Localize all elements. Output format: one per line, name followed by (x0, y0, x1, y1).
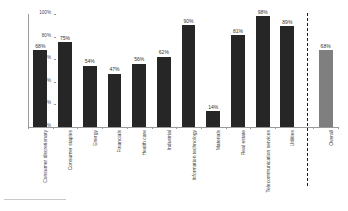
category-label: Materials (215, 130, 221, 150)
category-label-text: Telecommunication services (265, 130, 271, 193)
category-label-text: Consumer staples (67, 130, 73, 170)
category-label-text: Overall (328, 130, 334, 146)
bar (319, 50, 333, 127)
x-tick-mark (201, 127, 202, 129)
category-label: Consumer discretionary (42, 130, 48, 183)
x-tick-mark (28, 127, 29, 129)
category-label: Telecommunication services (265, 130, 271, 193)
category-label: Health care (141, 130, 147, 156)
category-label-text: Information technology (191, 130, 197, 181)
x-tick-mark (250, 127, 251, 129)
bar-group: 68% (319, 14, 333, 127)
bar-group: 47% (108, 14, 122, 127)
bar-group: 54% (83, 14, 97, 127)
x-axis-line (28, 127, 338, 128)
category-label: Consumer staples (67, 130, 73, 170)
x-tick-mark (176, 127, 177, 129)
bar-group: 68% (33, 14, 47, 127)
category-label: Financials (116, 130, 122, 153)
category-label-text: Financials (116, 130, 122, 153)
bar-value-label: 47% (109, 66, 119, 72)
bar-value-label: 81% (233, 28, 243, 34)
category-label-text: Consumer discretionary (42, 130, 48, 183)
bar (206, 111, 220, 127)
category-label: Energy (92, 130, 98, 146)
category-label: Information technology (191, 130, 197, 181)
bar (58, 42, 72, 127)
bar-value-label: 68% (35, 43, 45, 49)
x-tick-mark (313, 127, 314, 129)
bar-value-label: 62% (159, 49, 169, 55)
category-label-text: Real estate (240, 130, 246, 155)
bar-value-label: 98% (258, 9, 268, 15)
overall-divider (307, 13, 308, 186)
y-tick-mark (54, 127, 56, 128)
bar-value-label: 90% (184, 18, 194, 24)
bar (157, 57, 171, 127)
category-label-text: Utilities (289, 130, 295, 146)
bar-value-label: 54% (85, 58, 95, 64)
category-label: Real estate (240, 130, 246, 155)
bar (132, 64, 146, 127)
bar (33, 50, 47, 127)
bar (108, 74, 122, 127)
bar (83, 66, 97, 127)
bar (182, 25, 196, 127)
category-labels: Consumer discretionaryConsumer staplesEn… (28, 130, 338, 208)
bar-value-label: 68% (321, 43, 331, 49)
category-label-text: Industrial (166, 130, 172, 150)
category-label: Overall (328, 130, 334, 146)
category-label: Industrial (166, 130, 172, 150)
bar-chart: 0%20%40%60%80%100% 68%75%54%47%56%62%90%… (0, 0, 348, 211)
x-tick-mark (127, 127, 128, 129)
category-label-text: Energy (92, 130, 98, 146)
bar-value-label: 14% (208, 104, 218, 110)
x-tick-mark (102, 127, 103, 129)
bar (280, 26, 294, 127)
x-tick-mark (152, 127, 153, 129)
category-label-text: Health care (141, 130, 147, 156)
footer-rule (4, 199, 66, 200)
bar-value-label: 89% (282, 19, 292, 25)
bar-group: 81% (231, 14, 245, 127)
bars-layer: 68%75%54%47%56%62%90%14%81%98%89%68% (28, 14, 338, 127)
bar (231, 35, 245, 127)
bar-group: 90% (182, 14, 196, 127)
x-tick-mark (338, 127, 339, 129)
bar-group: 75% (58, 14, 72, 127)
x-tick-mark (275, 127, 276, 129)
bar-group: 56% (132, 14, 146, 127)
bar-value-label: 75% (60, 35, 70, 41)
bar (256, 16, 270, 127)
category-label-text: Materials (215, 130, 221, 150)
category-label: Utilities (289, 130, 295, 146)
bar-group: 14% (206, 14, 220, 127)
bar-group: 89% (280, 14, 294, 127)
bar-group: 98% (256, 14, 270, 127)
bar-value-label: 56% (134, 56, 144, 62)
x-tick-mark (77, 127, 78, 129)
bar-group: 62% (157, 14, 171, 127)
x-tick-mark (226, 127, 227, 129)
x-tick-mark (53, 127, 54, 129)
